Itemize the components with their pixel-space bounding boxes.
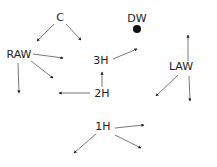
node-3h: 3H	[93, 54, 108, 67]
arrow-from-law-icon	[189, 76, 190, 101]
nodes-group: C RAW DW 3H 2H LAW 1H	[7, 11, 194, 133]
arrow-from-1h-icon	[115, 135, 141, 148]
arrow-from-c-icon	[66, 24, 81, 40]
node-c: C	[56, 11, 64, 24]
diagram-canvas: C RAW DW 3H 2H LAW 1H	[0, 0, 217, 167]
arrow-from-law-icon	[156, 75, 178, 96]
dw-dot-icon	[133, 25, 141, 33]
arrow-from-1h-icon	[74, 134, 96, 153]
node-dw: DW	[127, 12, 146, 25]
arrow-from-3h-icon	[113, 49, 137, 59]
node-1h: 1H	[95, 120, 110, 133]
arrow-from-raw-icon	[31, 61, 53, 78]
node-law: LAW	[169, 60, 193, 73]
arrow-from-1h-icon	[115, 125, 144, 128]
arrow-from-raw-icon	[18, 63, 19, 93]
node-2h: 2H	[94, 87, 109, 100]
node-raw: RAW	[7, 48, 32, 61]
arrow-from-c-icon	[37, 24, 54, 41]
arrow-from-raw-icon	[33, 54, 63, 58]
